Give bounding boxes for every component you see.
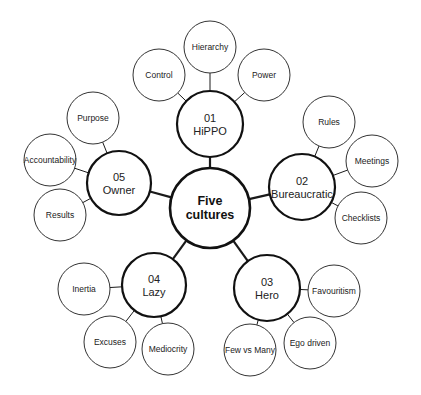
nodes: Fivecultures01HiPPOControlHierarchyPower… (24, 21, 398, 376)
culture-node-hippo-label: 01 (204, 112, 216, 124)
center-node: Fivecultures (170, 168, 250, 248)
trait-node-power-label: Power (252, 70, 276, 80)
culture-node-bureaucratic-label: Bureaucratic (271, 188, 333, 200)
trait-node-checklists-label: Checklists (342, 213, 381, 223)
connector-lazy-to-excuses (126, 310, 135, 321)
connector-bureaucratic-to-checklists (331, 202, 338, 206)
connector-hero-to-ego-driven (287, 314, 294, 323)
trait-node-inertia-label: Inertia (72, 284, 96, 294)
culture-node-lazy-label: 04 (148, 273, 160, 285)
trait-node-inertia: Inertia (58, 263, 110, 315)
culture-node-lazy-label: Lazy (142, 286, 166, 298)
connector-center-to-bureaucratic (249, 194, 270, 199)
trait-node-control: Control (133, 49, 185, 101)
connector-owner-to-results (83, 198, 91, 202)
connector-center-to-hero (233, 241, 248, 262)
connector-owner-to-accountability (75, 168, 89, 173)
connector-center-to-owner (150, 191, 172, 197)
connector-owner-to-purpose (103, 142, 107, 153)
culture-node-hero: 03Hero (234, 255, 300, 321)
connector-hippo-to-power (234, 92, 244, 101)
trait-node-excuses: Excuses (84, 316, 136, 368)
culture-node-bureaucratic: 02Bureaucratic (269, 154, 335, 220)
trait-node-few-vs-many: Few vs Many (224, 324, 276, 376)
connector-hippo-to-control (178, 93, 186, 101)
trait-node-power: Power (238, 49, 290, 101)
trait-node-favouritism-label: Favouritism (312, 286, 356, 296)
trait-node-ego-driven-label: Ego driven (290, 338, 331, 348)
center-node-label: Five (197, 194, 222, 208)
trait-node-meetings-label: Meetings (355, 156, 390, 166)
trait-node-hierarchy-label: Hierarchy (192, 42, 229, 52)
connector-lazy-to-mediocrity (161, 316, 163, 323)
trait-node-hierarchy: Hierarchy (184, 21, 236, 73)
connector-center-to-lazy (173, 240, 187, 259)
culture-node-bureaucratic-label: 02 (296, 175, 308, 187)
trait-node-ego-driven: Ego driven (284, 317, 336, 369)
trait-node-rules-label: Rules (318, 117, 340, 127)
five-cultures-diagram: Fivecultures01HiPPOControlHierarchyPower… (0, 0, 421, 395)
connector-bureaucratic-to-meetings (333, 170, 348, 175)
culture-node-owner-label: 05 (113, 171, 125, 183)
connector-bureaucratic-to-rules (315, 146, 319, 157)
trait-node-few-vs-many-label: Few vs Many (225, 345, 276, 355)
trait-node-mediocrity: Mediocrity (142, 323, 194, 375)
culture-node-hero-label: 03 (261, 276, 273, 288)
trait-node-rules: Rules (303, 96, 355, 148)
culture-node-owner-label: Owner (103, 184, 136, 196)
culture-node-lazy: 04Lazy (122, 253, 186, 317)
trait-node-control-label: Control (145, 70, 173, 80)
trait-node-mediocrity-label: Mediocrity (149, 344, 188, 354)
trait-node-meetings: Meetings (346, 135, 398, 187)
trait-node-excuses-label: Excuses (94, 337, 126, 347)
trait-node-purpose-label: Purpose (77, 113, 109, 123)
diagram-canvas: Fivecultures01HiPPOControlHierarchyPower… (0, 0, 421, 395)
trait-node-checklists: Checklists (335, 192, 387, 244)
trait-node-accountability: Accountability (24, 134, 77, 186)
center-node-label: cultures (186, 208, 235, 222)
trait-node-results-label: Results (46, 210, 74, 220)
connector-lazy-to-inertia (110, 287, 122, 288)
culture-node-hippo: 01HiPPO (177, 91, 243, 157)
culture-node-hero-label: Hero (255, 289, 279, 301)
trait-node-favouritism: Favouritism (308, 265, 360, 317)
trait-node-results: Results (34, 189, 86, 241)
trait-node-accountability-label: Accountability (24, 155, 77, 165)
culture-node-hippo-label: HiPPO (193, 125, 227, 137)
culture-node-owner: 05Owner (87, 151, 151, 215)
trait-node-purpose: Purpose (67, 92, 119, 144)
